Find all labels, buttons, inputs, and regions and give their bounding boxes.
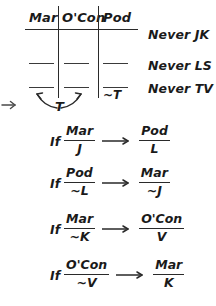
slot-ocon-row1 [64, 63, 89, 64]
slot-pod-row1 [103, 63, 128, 64]
annotation-not-t: ~T [103, 88, 121, 102]
consequent-denominator: ~J [147, 183, 162, 198]
antecedent-denominator: ~L [70, 183, 88, 198]
implies-arrow-icon [116, 269, 146, 281]
consequent-numerator: Mar [139, 167, 170, 182]
consequent-fraction: O'Con V [139, 213, 184, 243]
antecedent-numerator: O'Con [64, 259, 109, 274]
consequent-denominator: L [151, 141, 159, 156]
header-underline [25, 29, 138, 30]
antecedent-fraction: Mar ~K [64, 213, 95, 243]
if-label: If [50, 266, 60, 283]
slot-mar-row1 [29, 63, 54, 64]
implies-arrow-icon [102, 177, 132, 189]
if-label: If [50, 132, 60, 149]
consequent-numerator: O'Con [139, 213, 184, 228]
antecedent-denominator: ~V [77, 275, 97, 290]
consequent-fraction: Mar ~J [139, 167, 170, 197]
column-header-pod: Pod [103, 10, 131, 25]
conditional-rule-4: If O'Con ~V Mar K [50, 254, 184, 294]
implies-arrow-icon [102, 223, 132, 235]
column-divider-1 [58, 6, 59, 98]
column-divider-2 [98, 6, 99, 98]
implies-arrow-icon [102, 135, 132, 147]
right-arrow-icon [1, 98, 19, 112]
conditional-rule-2: If Pod ~L Mar ~J [50, 162, 170, 202]
antecedent-numerator: Mar [64, 213, 95, 228]
antecedent-fraction: Pod ~L [64, 167, 95, 197]
conditional-rule-3: If Mar ~K O'Con V [50, 208, 184, 248]
antecedent-numerator: Pod [64, 167, 95, 182]
consequent-denominator: V [157, 229, 167, 244]
consequent-numerator: Mar [153, 259, 184, 274]
constraint-never-ls: Never LS [148, 58, 212, 73]
consequent-fraction: Mar K [153, 259, 184, 289]
if-label: If [50, 174, 60, 191]
consequent-numerator: Pod [139, 125, 170, 140]
constraint-never-jk: Never JK [148, 27, 209, 42]
antecedent-numerator: Mar [64, 125, 95, 140]
antecedent-denominator: ~K [70, 229, 90, 244]
column-header-mar: Mar [29, 10, 57, 25]
if-label: If [50, 220, 60, 237]
constraint-never-tv: Never TV [148, 81, 213, 96]
antecedent-denominator: J [77, 141, 82, 156]
antecedent-fraction: O'Con ~V [64, 259, 109, 289]
consequent-fraction: Pod L [139, 125, 170, 155]
consequent-denominator: K [164, 275, 174, 290]
conditional-rule-1: If Mar J Pod L [50, 120, 170, 160]
curved-double-arrow-icon [28, 86, 90, 112]
antecedent-fraction: Mar J [64, 125, 95, 155]
